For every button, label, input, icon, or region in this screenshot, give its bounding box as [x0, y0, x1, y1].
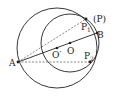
point-o-prime	[56, 47, 59, 50]
geometry-diagram: A B O O′ P 1 (P) P 2	[0, 0, 117, 96]
point-a	[17, 61, 20, 64]
label-o: O	[67, 46, 74, 56]
point-p1	[85, 18, 88, 21]
point-o	[69, 42, 72, 45]
label-p1-subscript: 1	[87, 26, 91, 33]
label-b: B	[97, 30, 104, 40]
label-p-note: (P)	[93, 14, 106, 24]
label-p2-subscript: 2	[90, 55, 94, 62]
label-a: A	[8, 58, 16, 68]
label-o-prime: O′	[52, 50, 61, 60]
